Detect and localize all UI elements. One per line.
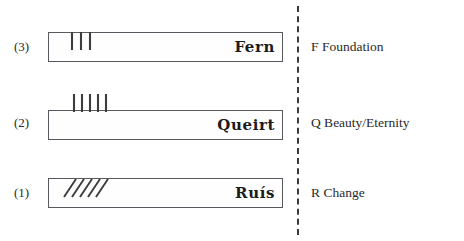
ogham-letter-name: Queirt — [217, 116, 275, 134]
ogham-letter-box: Fern — [48, 32, 283, 62]
ogham-row: (1) Ruís R Change — [0, 168, 464, 216]
ogham-meaning: Q Beauty/Eternity — [311, 116, 410, 131]
ogham-meaning: R Change — [311, 186, 365, 201]
ogham-meaning: F Foundation — [311, 40, 383, 55]
row-index-label: (2) — [14, 116, 44, 129]
vertical-dashed-divider — [297, 6, 299, 235]
ogham-letter-name: Fern — [234, 38, 275, 56]
ogham-chart: (3) Fern F Foundation (2) Queirt — [0, 0, 464, 241]
ogham-letter-box: Ruís — [48, 178, 283, 208]
row-index-label: (3) — [14, 40, 44, 53]
ogham-row: (3) Fern F Foundation — [0, 22, 464, 68]
row-index-label: (1) — [14, 186, 44, 199]
ogham-letter-box: Queirt — [48, 110, 283, 140]
ogham-letter-name: Ruís — [235, 184, 275, 202]
ogham-row: (2) Queirt Q Beauty/Eternity — [0, 92, 464, 140]
